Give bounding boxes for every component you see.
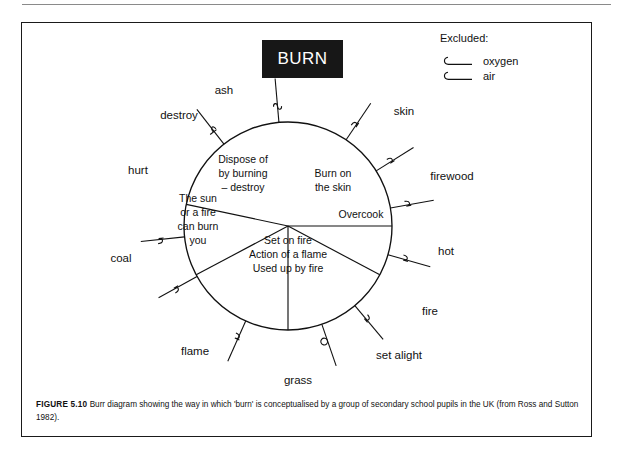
spoke-label: set alight [376, 349, 423, 361]
spoke-label: destroy [160, 109, 198, 121]
spoke-fire: fire [376, 148, 438, 317]
segment-text-line: Action of a flame [249, 248, 327, 260]
spoke-label: coal [110, 252, 131, 264]
segment-text-line: can burn [178, 220, 219, 232]
spoke-hot: hot [390, 200, 454, 257]
spoke-set-alight: set alight [346, 103, 423, 361]
segment-burn-on-skin: Burn onthe skin [315, 167, 352, 193]
legend: Excluded: oxygen air [440, 32, 518, 83]
spoke-line [159, 276, 197, 297]
figure-page: Dispose ofby burning– destroyBurn onthe … [0, 0, 617, 464]
figure-caption: FIGURE 5.10 Burr diagram showing the way… [36, 399, 581, 424]
segment-text-line: Used up by fire [253, 262, 324, 274]
burr-diagram: Dispose ofby burning– destroyBurn onthe … [21, 22, 592, 437]
top-hairline-rule [22, 4, 611, 5]
hook-line-marker-icon [440, 54, 474, 68]
spoke-line [275, 79, 279, 123]
segment-dispose: Dispose ofby burning– destroy [218, 153, 268, 193]
spoke-line [390, 200, 433, 208]
spoke-label: grass [284, 374, 312, 386]
segment-text-line: Burn on [315, 167, 352, 179]
legend-label-air: air [483, 70, 495, 82]
spoke-grass: grass [273, 79, 312, 386]
spoke-line [376, 148, 413, 171]
segment-text-line: or a fire [180, 206, 216, 218]
spoke-line [228, 321, 246, 361]
caption-figure-number: FIGURE 5.10 [36, 400, 87, 409]
segment-text-line: Overcook [339, 208, 385, 220]
segment-overcook: Overcook [339, 208, 385, 220]
segment-text-line: Set on fire [264, 234, 312, 246]
spoke-label: hot [438, 245, 455, 257]
legend-title: Excluded: [440, 32, 518, 44]
spoke-label: skin [394, 105, 414, 117]
segment-text-line: The sun [179, 192, 217, 204]
spoke-label: fire [422, 305, 438, 317]
legend-item-air: air [440, 68, 518, 83]
spoke-line [197, 109, 224, 144]
caption-body: Burr diagram showing the way in which 'b… [36, 400, 578, 422]
legend-item-oxygen: oxygen [440, 53, 518, 68]
spoke-line [355, 306, 383, 340]
segment-text-line: you [190, 234, 207, 246]
segment-text-line: Dispose of [218, 153, 268, 165]
spoke-label: hurt [128, 164, 149, 176]
spoke-label: ash [215, 84, 234, 96]
spoke-label: flame [181, 345, 209, 357]
segment-text-line: by burning [218, 167, 267, 179]
legend-label-oxygen: oxygen [483, 55, 518, 67]
spoke-line [388, 255, 430, 267]
spoke-firewood: firewood [388, 170, 474, 267]
spoke-label: firewood [430, 170, 473, 182]
spoke-coal: coal [110, 237, 184, 264]
segment-text-line: – destroy [221, 181, 265, 193]
burn-title-label: BURN [277, 49, 327, 69]
spoke-line [346, 103, 371, 139]
segment-text-line: the skin [315, 181, 351, 193]
hook-line-marker-icon [440, 69, 474, 83]
burn-title-box: BURN [262, 40, 343, 78]
spoke-skin: skin [355, 105, 414, 339]
